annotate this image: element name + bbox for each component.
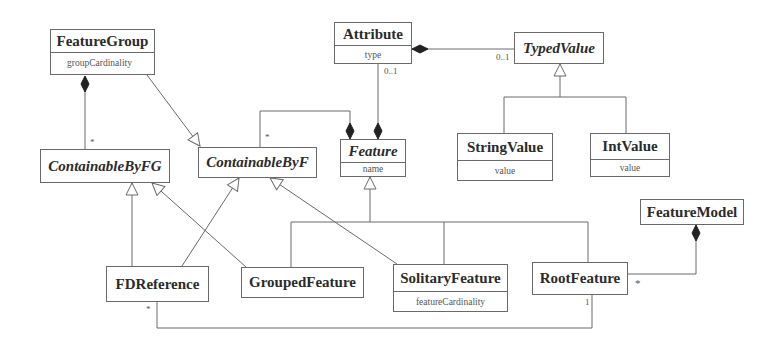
class-name: Attribute xyxy=(335,23,411,45)
feature-gen-tree xyxy=(291,222,588,267)
class-name: ContainableByFG xyxy=(41,150,169,182)
class-name: ContainableByF xyxy=(199,148,316,177)
class-name: TypedValue xyxy=(515,33,603,63)
class-name: StringValue xyxy=(458,134,552,160)
typed-gen-tree xyxy=(504,97,626,133)
mult-attribute-typedvalue: 0..1 xyxy=(496,52,510,62)
class-feature-model: FeatureModel xyxy=(640,199,744,225)
mult-featuremodel-root: * xyxy=(635,277,641,289)
grouped-cbfg-line xyxy=(152,183,246,267)
mult-root-fdref: 1 xyxy=(585,297,590,307)
class-fd-reference: FDReference xyxy=(106,266,209,302)
mult-fdref-root: * xyxy=(146,304,151,314)
class-attribute: value xyxy=(591,159,669,177)
class-feature-group: FeatureGroup groupCardinality xyxy=(50,29,155,75)
class-attribute: value xyxy=(458,160,552,181)
class-int-value: IntValue value xyxy=(590,133,670,177)
class-name: IntValue xyxy=(591,134,669,159)
class-name: FeatureGroup xyxy=(51,30,154,52)
fg-generalization-line xyxy=(147,75,200,146)
class-attribute: name xyxy=(341,162,405,176)
fdref-root-line xyxy=(157,295,592,328)
class-name: GroupedFeature xyxy=(242,268,363,297)
fm-root-line xyxy=(628,225,696,274)
mult-attribute-feature: 0..1 xyxy=(384,66,398,76)
class-name: SolitaryFeature xyxy=(394,265,507,291)
mult-fg-children: * xyxy=(90,137,95,147)
class-attribute: groupCardinality xyxy=(51,52,154,73)
class-name: FeatureModel xyxy=(641,200,743,224)
class-attribute: featureCardinality xyxy=(394,291,507,312)
class-string-value: StringValue value xyxy=(457,133,553,181)
class-typed-value: TypedValue xyxy=(514,32,604,64)
class-feature: Feature name xyxy=(340,139,406,177)
class-name: FDReference xyxy=(107,267,208,301)
class-solitary-feature: SolitaryFeature featureCardinality xyxy=(393,264,508,312)
class-attribute: type xyxy=(335,45,411,64)
class-containable-by-fg: ContainableByFG xyxy=(40,149,170,183)
class-root-feature: RootFeature xyxy=(532,262,628,295)
class-name: RootFeature xyxy=(533,263,627,294)
mult-feature-children: * xyxy=(265,132,270,142)
class-attribute: Attribute type xyxy=(334,22,412,64)
class-containable-by-f: ContainableByF xyxy=(198,147,317,178)
solitary-cbf-line xyxy=(270,178,397,264)
class-name: Feature xyxy=(341,140,405,162)
feature-cbf-line xyxy=(260,111,350,147)
class-grouped-feature: GroupedFeature xyxy=(241,267,364,298)
